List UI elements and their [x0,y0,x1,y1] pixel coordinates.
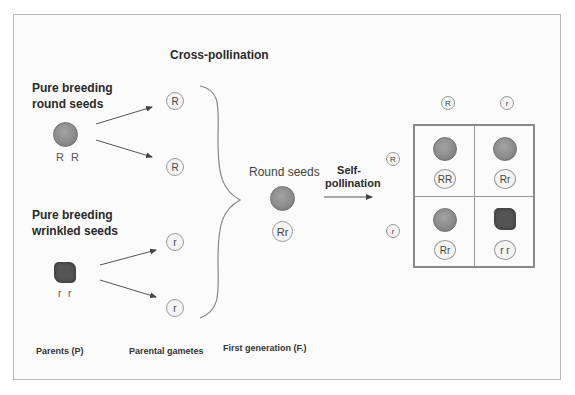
first-gen-bottom-label: First generation (F.) [223,343,307,353]
punnett-cell-genotype: Rr [434,240,456,260]
round-seed-icon [270,186,295,211]
first-gen-genotype: Rr [272,221,293,242]
punnett-cell-genotype: RR [434,169,456,189]
round-seed-icon [493,137,517,161]
self-pollination-label: Self- pollination [325,164,373,190]
wrinkled-seed-icon [494,208,516,230]
punnett-cell-genotype: Rr [494,169,516,189]
gametes-label: Parental gametes [129,346,204,356]
parents-label: Parents (P) [36,346,84,356]
first-gen-label: Round seeds [249,164,320,180]
round-seed-icon [433,137,457,161]
punnett-cell-genotype: r r [494,240,516,260]
punnett-square: RR Rr Rr r r [413,124,535,268]
round-seed-icon [433,208,457,232]
punnett-col-header: R [441,96,455,110]
punnett-divider-horizontal [415,196,533,197]
punnett-col-header: r [500,96,514,110]
punnett-row-header: r [386,224,400,238]
self-pollination-line2: pollination [325,177,373,190]
self-pollination-line1: Self- [325,164,373,177]
punnett-row-header: R [386,152,400,166]
